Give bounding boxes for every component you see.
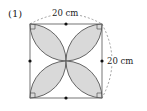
petals (30, 24, 102, 98)
petal-bottom-right (66, 61, 102, 98)
top-dimension-label: 20 cm (51, 8, 79, 18)
dot-bottom (64, 96, 67, 99)
problem-number: (1) (8, 8, 22, 19)
petal-top-left (30, 24, 66, 61)
dot-top (64, 22, 67, 25)
petal-bottom-left (30, 61, 66, 98)
petal-top-right (66, 24, 102, 61)
dot-left (28, 59, 31, 62)
dot-right (100, 59, 103, 62)
right-dimension-label: 20 cm (106, 56, 134, 66)
